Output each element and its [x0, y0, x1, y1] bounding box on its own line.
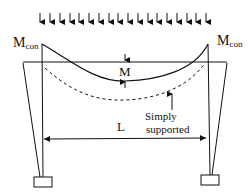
right-column-inner — [208, 44, 210, 175]
distributed-load-arrows — [40, 13, 206, 22]
simply-supported-label-1: Simply — [145, 110, 177, 122]
simply-supported-label-2: supported — [146, 123, 190, 135]
left-column-outer — [23, 63, 40, 177]
m-con-right-label: Mcon — [217, 33, 243, 49]
m-con-left-label: Mcon — [13, 35, 39, 51]
midspan-moment-label: M — [119, 64, 131, 79]
span-dimension-line — [44, 138, 206, 139]
left-base — [34, 177, 52, 187]
right-column-outer — [212, 63, 227, 175]
right-base — [201, 175, 219, 185]
portal-frame-diagram: Mcon Mcon M Simply supported L — [0, 0, 251, 196]
span-label: L — [117, 119, 125, 134]
left-column-inner — [42, 44, 43, 177]
